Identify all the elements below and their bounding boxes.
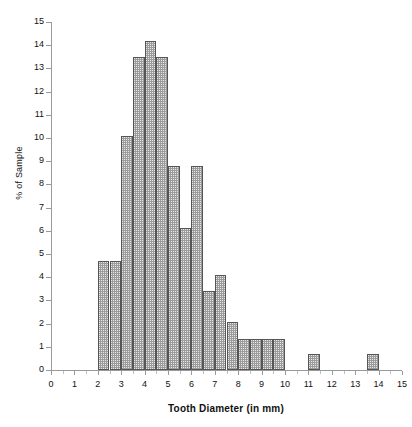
y-axis-tick: [46, 161, 51, 162]
x-axis-minor-tick: [227, 371, 228, 374]
x-axis-minor-tick: [273, 371, 274, 374]
x-axis-tick: [51, 371, 52, 375]
x-axis-tick-label: 11: [297, 379, 319, 389]
x-axis-tick-label: 6: [180, 379, 202, 389]
y-axis-tick-label: 15: [6, 17, 44, 26]
x-axis-tick: [191, 371, 192, 375]
y-axis-tick-label-wrap: 8: [0, 179, 44, 188]
x-axis-tick-label: 4: [134, 379, 156, 389]
x-axis-tick: [238, 371, 239, 375]
y-axis-tick: [46, 45, 51, 46]
histogram-bar: [180, 228, 192, 370]
y-axis-tick: [46, 231, 51, 232]
y-axis-tick: [46, 22, 51, 23]
x-axis-minor-tick: [320, 371, 321, 374]
y-axis-tick-label: 14: [6, 40, 44, 49]
y-axis-tick-label: 11: [6, 110, 44, 119]
x-axis-tick: [355, 371, 356, 375]
y-axis-tick-label-wrap: 5: [0, 249, 44, 258]
y-axis-tick-label: 1: [6, 342, 44, 351]
y-axis-tick-label: 9: [6, 156, 44, 165]
histogram-bar: [262, 339, 274, 370]
x-axis-tick: [74, 371, 75, 375]
y-axis-tick-label-wrap: 1: [0, 342, 44, 351]
x-axis-minor-tick: [367, 371, 368, 374]
x-axis-tick: [145, 371, 146, 375]
x-axis-minor-tick: [203, 371, 204, 374]
bars-layer: [51, 22, 402, 371]
histogram-bar: [191, 166, 203, 370]
histogram-bar: [98, 261, 110, 370]
x-axis-tick-label: 2: [87, 379, 109, 389]
x-axis-minor-tick: [390, 371, 391, 374]
y-axis-tick-label: 0: [6, 365, 44, 374]
histogram-bar: [133, 57, 145, 370]
y-axis-tick: [46, 347, 51, 348]
y-axis-tick: [46, 138, 51, 139]
x-axis-tick-label: 0: [40, 379, 62, 389]
y-axis-tick-label-wrap: 6: [0, 226, 44, 235]
x-axis-tick: [332, 371, 333, 375]
x-axis-minor-tick: [156, 371, 157, 374]
y-axis-tick-label: 4: [6, 272, 44, 281]
x-axis-tick-label: 13: [344, 379, 366, 389]
y-axis-tick-label-wrap: 2: [0, 319, 44, 328]
x-axis-minor-tick: [297, 371, 298, 374]
y-axis-tick: [46, 277, 51, 278]
y-axis-tick: [46, 68, 51, 69]
y-axis-tick-label-wrap: 14: [0, 40, 44, 49]
x-axis-minor-tick: [133, 371, 134, 374]
y-axis-tick-label: 6: [6, 226, 44, 235]
x-axis-minor-tick: [86, 371, 87, 374]
histogram-chart: % of Sample Tooth Diameter (in mm) 01234…: [0, 0, 412, 427]
y-axis-tick-label: 3: [6, 295, 44, 304]
histogram-bar: [367, 354, 379, 370]
y-axis-tick-label-wrap: 3: [0, 295, 44, 304]
x-axis-minor-tick: [110, 371, 111, 374]
y-axis-tick: [46, 208, 51, 209]
histogram-bar: [203, 291, 215, 370]
x-axis-tick: [121, 371, 122, 375]
x-axis-tick: [262, 371, 263, 375]
x-axis-minor-tick: [180, 371, 181, 374]
x-axis-tick-label: 8: [227, 379, 249, 389]
y-axis-tick-label-wrap: 0: [0, 365, 44, 374]
x-axis-tick-label: 5: [157, 379, 179, 389]
x-axis-tick: [168, 371, 169, 375]
y-axis-tick-label: 12: [6, 87, 44, 96]
y-axis-tick-label: 7: [6, 203, 44, 212]
x-axis-minor-tick: [63, 371, 64, 374]
y-axis-tick: [46, 115, 51, 116]
histogram-bar: [250, 339, 262, 370]
y-axis-tick-label-wrap: 10: [0, 133, 44, 142]
y-axis-tick-label-wrap: 13: [0, 63, 44, 72]
x-axis-tick: [308, 371, 309, 375]
x-axis-tick-label: 1: [63, 379, 85, 389]
x-axis-tick: [285, 371, 286, 375]
histogram-bar: [273, 339, 285, 370]
histogram-bar: [215, 275, 227, 370]
histogram-bar: [227, 322, 239, 370]
x-axis-tick: [402, 371, 403, 375]
y-axis-tick-label: 8: [6, 179, 44, 188]
histogram-bar: [121, 136, 133, 370]
y-axis-tick-label: 10: [6, 133, 44, 142]
histogram-bar: [238, 339, 250, 370]
x-axis-title: Tooth Diameter (in mm): [50, 403, 402, 414]
x-axis-tick: [215, 371, 216, 375]
histogram-bar: [308, 354, 320, 370]
x-axis-tick-label: 15: [391, 379, 412, 389]
y-axis-tick: [46, 324, 51, 325]
y-axis-tick-label-wrap: 11: [0, 110, 44, 119]
y-axis-tick: [46, 92, 51, 93]
x-axis-minor-tick: [344, 371, 345, 374]
x-axis-minor-tick: [250, 371, 251, 374]
x-axis-tick: [98, 371, 99, 375]
y-axis-tick-label-wrap: 7: [0, 203, 44, 212]
x-axis-tick-label: 9: [251, 379, 273, 389]
histogram-bar: [110, 261, 122, 370]
y-axis-tick: [46, 184, 51, 185]
x-axis-tick-label: 10: [274, 379, 296, 389]
histogram-bar: [145, 41, 157, 370]
y-axis-tick: [46, 300, 51, 301]
